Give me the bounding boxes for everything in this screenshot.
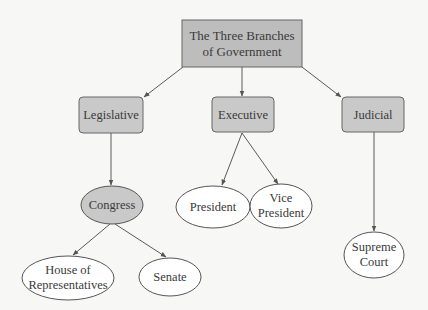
branch-legislative-label: Legislative <box>83 108 139 122</box>
edge-congress-senate <box>115 224 166 257</box>
branch-judicial: Judicial <box>342 97 404 132</box>
edge-executive-president <box>222 133 242 185</box>
node-president: President <box>176 186 250 228</box>
house-label-line2: Representatives <box>28 278 107 292</box>
edge-congress-house <box>73 224 110 255</box>
root-label-line2: of Government <box>202 44 281 59</box>
edges <box>73 67 374 257</box>
branch-judicial-label: Judicial <box>354 108 393 122</box>
supreme-court-label-line1: Supreme <box>352 240 397 254</box>
senate-label: Senate <box>153 270 187 284</box>
branch-executive-label: Executive <box>218 108 268 122</box>
branch-legislative: Legislative <box>79 97 143 133</box>
node-house: House of Representatives <box>22 256 114 300</box>
president-label: President <box>190 200 237 214</box>
vice-president-label-line1: Vice <box>270 191 293 205</box>
root-node: The Three Branches of Government <box>182 20 302 67</box>
root-label-line1: The Three Branches <box>189 28 294 43</box>
diagram-canvas: The Three Branches of Government Legisla… <box>0 0 428 310</box>
house-label-line1: House of <box>45 263 91 277</box>
node-senate: Senate <box>139 258 201 296</box>
supreme-court-label-line2: Court <box>360 255 389 269</box>
edge-root-legislative <box>144 67 183 97</box>
edge-executive-vicepresident <box>242 133 278 184</box>
congress-label: Congress <box>89 198 136 212</box>
node-supreme-court: Supreme Court <box>344 232 404 278</box>
vice-president-label-line2: President <box>258 206 305 220</box>
node-vice-president: Vice President <box>250 184 312 228</box>
edge-root-judicial <box>302 67 341 97</box>
node-congress: Congress <box>81 186 143 224</box>
branch-executive: Executive <box>212 97 274 132</box>
